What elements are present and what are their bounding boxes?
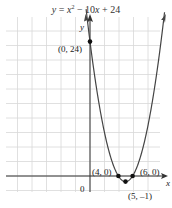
y-axis-label: y [80,22,84,32]
x-axis-label: x [166,178,170,188]
data-points [88,39,135,184]
origin-label: 0 [80,184,85,194]
parabola-curve [86,9,164,181]
point-label-6-0: (6, 0) [140,167,160,177]
point-label-5-neg1: (5, –1) [128,191,152,201]
point-label-0-24: (0, 24) [58,44,82,54]
axes [6,14,168,192]
point-label-4-0: (4, 0) [92,167,112,177]
